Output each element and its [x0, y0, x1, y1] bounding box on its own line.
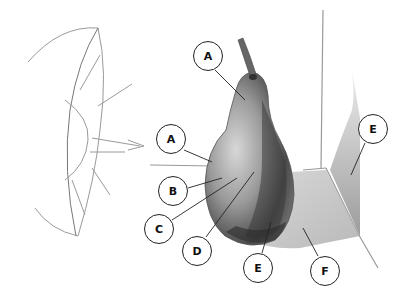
pear-shading-diagram: A A B C D E F E — [0, 0, 412, 304]
label-d: D — [182, 236, 212, 266]
label-b: B — [158, 176, 188, 206]
label-f: F — [310, 256, 340, 286]
label-e-right: E — [358, 114, 388, 144]
label-a-left: A — [156, 124, 186, 154]
label-a-top: A — [193, 41, 223, 71]
label-e-bottom: E — [243, 253, 273, 283]
pear-stem — [238, 38, 256, 76]
label-c: C — [144, 214, 174, 244]
sun-icon — [28, 28, 144, 236]
